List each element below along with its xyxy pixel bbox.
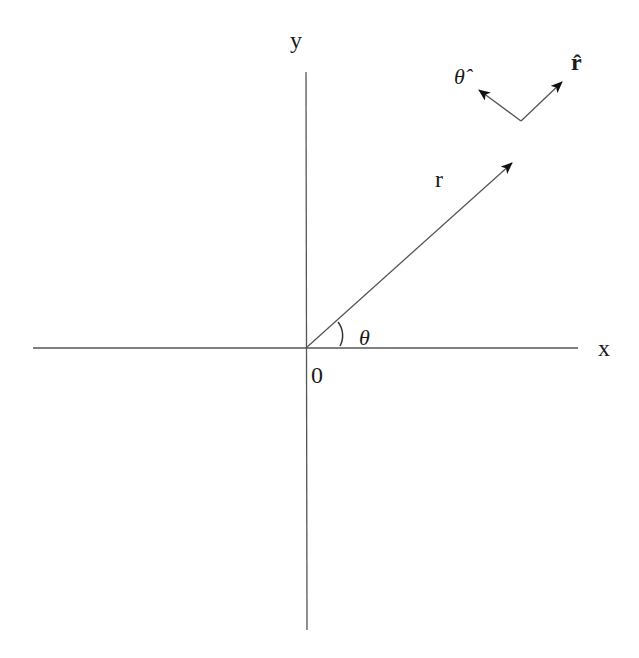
theta-hat-vector xyxy=(479,90,521,121)
r-hat-label: r̂ xyxy=(571,49,582,75)
y-axis-label: y xyxy=(290,27,302,53)
r-hat-vector xyxy=(521,82,562,121)
angle-label: θ xyxy=(359,325,370,350)
angle-arc xyxy=(338,322,343,346)
y-axis xyxy=(306,72,307,630)
theta-hat-label: θ̂ xyxy=(454,64,474,89)
origin-label: 0 xyxy=(311,362,323,388)
x-axis-label: x xyxy=(598,335,610,361)
r-vector xyxy=(306,163,512,348)
r-vector-label: r xyxy=(435,166,443,192)
polar-diagram: y x 0 r θ r̂ θ̂ xyxy=(0,0,639,658)
